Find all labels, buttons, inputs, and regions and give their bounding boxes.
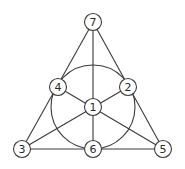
node-label: 5	[160, 143, 167, 156]
node-label: 2	[125, 81, 132, 94]
node-label: 7	[90, 16, 97, 29]
node-7: 7	[85, 14, 102, 31]
node-label: 6	[90, 143, 97, 156]
line-2-1-3	[22, 87, 128, 149]
node-6: 6	[85, 141, 102, 158]
node-2: 2	[120, 79, 137, 96]
edges	[22, 22, 163, 149]
node-3: 3	[14, 141, 31, 158]
node-1: 1	[85, 99, 102, 116]
node-label: 1	[90, 101, 97, 114]
node-5: 5	[155, 141, 172, 158]
node-4: 4	[50, 79, 67, 96]
line-4-1-5	[58, 87, 163, 149]
node-label: 4	[55, 81, 62, 94]
node-label: 3	[19, 143, 26, 156]
fano-plane-diagram: 1 2 3 4 5 6 7	[0, 0, 185, 169]
